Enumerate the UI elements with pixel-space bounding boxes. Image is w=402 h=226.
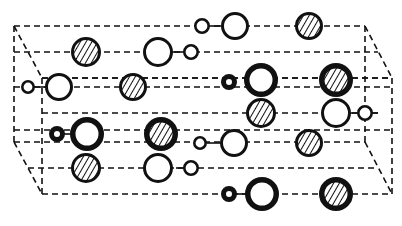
atom-open-thin [145, 155, 172, 182]
atom-hatched [297, 14, 322, 39]
atom-hatched [73, 155, 100, 182]
atom-open-thick [248, 180, 277, 209]
atom-small-thin [22, 81, 33, 92]
crystal-structure-diagram [0, 0, 402, 226]
atom-hatched [322, 66, 351, 95]
atom-small-thick [224, 189, 235, 200]
atom-small-thin [195, 19, 208, 32]
atom-open-thin [47, 75, 72, 100]
atom-open-thin [223, 14, 248, 39]
atom-hatched [121, 75, 146, 100]
atom-hatched [73, 39, 100, 66]
atoms [22, 14, 371, 209]
atom-small-thin [184, 161, 197, 174]
atom-hatched [248, 100, 275, 127]
atom-open-thin [145, 39, 172, 66]
diagram-canvas [0, 0, 402, 226]
atom-open-thin [323, 100, 350, 127]
atom-small-thin [358, 106, 371, 119]
atom-open-thin [222, 131, 247, 156]
atom-open-thick [247, 66, 276, 95]
atom-small-thin [194, 137, 205, 148]
atom-hatched [322, 180, 351, 209]
atom-small-thin [184, 45, 197, 58]
atom-hatched [297, 131, 322, 156]
atom-small-thick [52, 129, 63, 140]
atom-open-thick [73, 120, 102, 149]
atom-small-thick [224, 77, 235, 88]
atom-hatched [147, 120, 176, 149]
